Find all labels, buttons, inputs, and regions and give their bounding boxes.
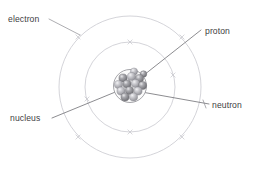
atom-diagram: electron proton neutron nucleus [0, 0, 260, 169]
nucleon-proton [121, 93, 129, 101]
nucleon-neutron [129, 93, 137, 101]
label-nucleus: nucleus [10, 113, 40, 123]
electron-leader-line [49, 19, 80, 35]
label-neutron: neutron [212, 100, 242, 110]
label-proton: proton [205, 26, 230, 36]
neutron-leader-tick [203, 100, 206, 108]
label-electron: electron [8, 14, 39, 24]
